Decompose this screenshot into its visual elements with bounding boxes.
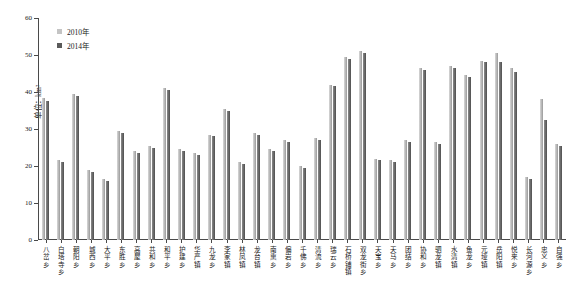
bar-group[interactable] (253, 133, 260, 240)
bar-2010[interactable] (102, 179, 105, 240)
bar-2010[interactable] (464, 75, 467, 240)
bar-2014[interactable] (91, 172, 94, 240)
bar-2010[interactable] (57, 160, 60, 240)
bar-group[interactable] (223, 109, 230, 240)
bar-2014[interactable] (484, 62, 487, 240)
bar-2010[interactable] (480, 61, 483, 240)
bar-group[interactable] (72, 94, 79, 240)
bar-2010[interactable] (374, 159, 377, 240)
bar-group[interactable] (133, 151, 140, 240)
bar-2010[interactable] (268, 149, 271, 240)
bar-2010[interactable] (329, 85, 332, 240)
bar-group[interactable] (404, 140, 411, 240)
bar-2014[interactable] (408, 142, 411, 240)
bar-2010[interactable] (510, 68, 513, 240)
bar-2014[interactable] (121, 133, 124, 240)
bar-2014[interactable] (287, 142, 290, 240)
bar-group[interactable] (495, 53, 502, 240)
bar-2010[interactable] (540, 99, 543, 240)
bar-2010[interactable] (404, 140, 407, 240)
bar-2014[interactable] (272, 151, 275, 240)
bar-2010[interactable] (87, 170, 90, 240)
bar-group[interactable] (525, 177, 532, 240)
bar-2014[interactable] (212, 136, 215, 240)
bar-group[interactable] (148, 146, 155, 240)
bar-2010[interactable] (449, 66, 452, 240)
bar-group[interactable] (540, 99, 547, 240)
bar-2010[interactable] (193, 153, 196, 240)
bar-2014[interactable] (318, 140, 321, 240)
bar-2014[interactable] (242, 164, 245, 240)
bar-2010[interactable] (42, 98, 45, 240)
bar-group[interactable] (117, 131, 124, 240)
bar-2010[interactable] (344, 57, 347, 240)
bar-2014[interactable] (514, 72, 517, 240)
bar-group[interactable] (555, 144, 562, 240)
bar-group[interactable] (449, 66, 456, 240)
bar-group[interactable] (314, 138, 321, 240)
bar-group[interactable] (178, 149, 185, 240)
bar-2014[interactable] (197, 155, 200, 240)
bar-2010[interactable] (495, 53, 498, 240)
bar-2010[interactable] (133, 151, 136, 240)
bar-group[interactable] (208, 135, 215, 240)
bar-2010[interactable] (314, 138, 317, 240)
bar-2014[interactable] (378, 160, 381, 240)
bar-2014[interactable] (559, 146, 562, 240)
bar-2014[interactable] (544, 120, 547, 240)
bar-2010[interactable] (419, 68, 422, 240)
bar-2014[interactable] (333, 86, 336, 240)
bar-group[interactable] (299, 166, 306, 240)
bar-2014[interactable] (393, 162, 396, 240)
bar-group[interactable] (480, 61, 487, 240)
bar-2014[interactable] (423, 70, 426, 240)
bar-2010[interactable] (525, 177, 528, 240)
bar-group[interactable] (163, 88, 170, 240)
bar-2014[interactable] (363, 53, 366, 240)
bar-2014[interactable] (137, 153, 140, 240)
bar-group[interactable] (374, 159, 381, 240)
bar-2010[interactable] (555, 144, 558, 240)
bar-2010[interactable] (389, 160, 392, 240)
bar-2014[interactable] (152, 148, 155, 241)
bar-2014[interactable] (76, 96, 79, 240)
bar-2014[interactable] (348, 59, 351, 240)
bar-group[interactable] (238, 162, 245, 240)
bar-group[interactable] (87, 170, 94, 240)
bar-2010[interactable] (208, 135, 211, 240)
bar-group[interactable] (389, 160, 396, 240)
bar-group[interactable] (102, 179, 109, 240)
bar-2010[interactable] (117, 131, 120, 240)
bar-2014[interactable] (499, 62, 502, 240)
bar-group[interactable] (42, 98, 49, 240)
bar-group[interactable] (419, 68, 426, 240)
bar-2014[interactable] (46, 101, 49, 240)
bar-2014[interactable] (61, 162, 64, 240)
bar-2010[interactable] (283, 140, 286, 240)
bar-2014[interactable] (529, 179, 532, 240)
bar-group[interactable] (268, 149, 275, 240)
bar-2010[interactable] (253, 133, 256, 240)
bar-2014[interactable] (167, 90, 170, 240)
bar-group[interactable] (329, 85, 336, 240)
bar-group[interactable] (283, 140, 290, 240)
bar-group[interactable] (434, 142, 441, 240)
bar-2010[interactable] (72, 94, 75, 240)
bar-2014[interactable] (303, 168, 306, 240)
bar-2014[interactable] (438, 144, 441, 240)
bar-group[interactable] (57, 160, 64, 240)
bar-2010[interactable] (223, 109, 226, 240)
bar-group[interactable] (359, 51, 366, 240)
bar-2010[interactable] (148, 146, 151, 240)
bar-group[interactable] (193, 153, 200, 240)
bar-2014[interactable] (468, 77, 471, 240)
bar-2010[interactable] (178, 149, 181, 240)
bar-2014[interactable] (106, 181, 109, 240)
bar-group[interactable] (344, 57, 351, 240)
bar-2014[interactable] (453, 68, 456, 240)
bar-2010[interactable] (238, 162, 241, 240)
bar-2010[interactable] (163, 88, 166, 240)
bar-2010[interactable] (359, 51, 362, 240)
bar-2014[interactable] (227, 111, 230, 241)
bar-2010[interactable] (299, 166, 302, 240)
